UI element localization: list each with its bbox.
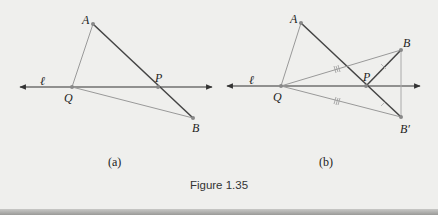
- segment-aq-a: [72, 24, 93, 87]
- figure-caption: Figure 1.35: [190, 179, 248, 191]
- segment-qb-prime-b: [281, 86, 401, 117]
- tick-marks-qb: [334, 65, 340, 73]
- segment-ab-prime-b: [301, 23, 401, 117]
- point-b-a: [191, 116, 195, 120]
- label-a-b: A: [289, 12, 298, 26]
- page-edge-divider: [0, 209, 438, 215]
- panel-b: A Q P B B′ ℓ (b): [227, 12, 420, 169]
- tick-mark-pb-prime: [381, 101, 386, 106]
- point-p-b: [364, 84, 368, 88]
- point-q-b: [279, 84, 283, 88]
- label-line-l-b: ℓ: [249, 73, 254, 87]
- segment-qb-a: [72, 87, 193, 118]
- label-b-b: B: [403, 36, 411, 50]
- tick-marks-qb-prime: [334, 97, 340, 105]
- label-q-a: Q: [64, 91, 73, 105]
- label-b-a: B: [192, 121, 200, 135]
- panel-label-a: (a): [108, 155, 121, 169]
- segment-ab-a: [93, 24, 193, 118]
- label-line-l-a: ℓ: [40, 74, 45, 88]
- point-p-a: [156, 85, 160, 89]
- panel-label-b: (b): [319, 155, 333, 169]
- point-b-prime-b: [399, 115, 403, 119]
- figure-1-35: A Q P B ℓ (a): [0, 0, 438, 215]
- label-p-b: P: [362, 70, 371, 84]
- point-a-a: [91, 22, 95, 26]
- label-p-a: P: [154, 71, 163, 85]
- point-q-a: [70, 85, 74, 89]
- label-q-b: Q: [273, 90, 282, 104]
- label-b-prime-b: B′: [400, 122, 410, 136]
- point-a-b: [299, 21, 303, 25]
- panel-a: A Q P B ℓ (a): [20, 13, 212, 169]
- segment-aq-b: [281, 23, 301, 86]
- label-a-a: A: [81, 13, 90, 27]
